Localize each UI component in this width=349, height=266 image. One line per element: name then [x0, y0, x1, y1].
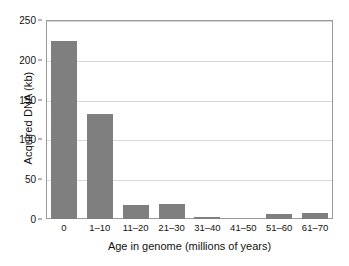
y-axis-tick-labels: 050100150200250	[0, 20, 42, 219]
gridline	[47, 180, 332, 181]
x-axis-tick-label: 1–10	[89, 222, 110, 233]
x-axis-tick-label: 0	[61, 222, 66, 233]
gridline	[47, 61, 332, 62]
y-axis-tick-label: 200	[19, 54, 36, 65]
y-axis-tick-mark	[38, 139, 42, 140]
gridline	[47, 101, 332, 102]
gridlines	[47, 21, 332, 218]
x-axis-tick-label: 31–40	[194, 222, 220, 233]
y-axis-tick-mark	[38, 179, 42, 180]
y-axis-tick-label: 100	[19, 134, 36, 145]
y-axis-tick-mark	[38, 219, 42, 220]
y-axis-tick-mark	[38, 20, 42, 21]
x-axis-tick-label: 11–20	[123, 222, 149, 233]
x-axis-tick-label: 21–30	[158, 222, 184, 233]
y-axis-tick-label: 0	[30, 214, 36, 225]
x-axis-tick-label: 61–70	[302, 222, 328, 233]
bar-chart: Acquired DNA (kb) 050100150200250 01–101…	[0, 0, 349, 266]
y-axis-tick-mark	[38, 59, 42, 60]
x-axis-tick-labels: 01–1011–2021–3031–4041–5051–6061–70	[46, 222, 333, 238]
y-axis-tick-label: 250	[19, 15, 36, 26]
y-axis-tick-mark	[38, 99, 42, 100]
x-axis-tick-label: 41–50	[230, 222, 256, 233]
y-axis-tick-label: 150	[19, 94, 36, 105]
x-axis-title: Age in genome (millions of years)	[46, 240, 333, 252]
gridline	[47, 140, 332, 141]
x-axis-tick-label: 51–60	[266, 222, 292, 233]
y-axis-tick-label: 50	[25, 174, 36, 185]
gridline	[47, 21, 332, 22]
plot-area	[46, 20, 333, 219]
